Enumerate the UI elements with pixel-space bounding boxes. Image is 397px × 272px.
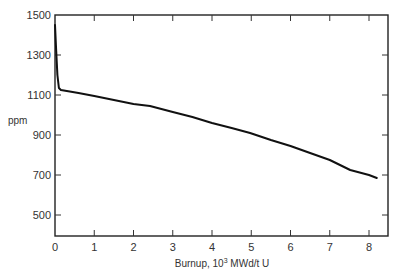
y-axis-label: ppm bbox=[8, 115, 27, 126]
x-tick-label: 1 bbox=[91, 241, 97, 253]
y-tick-label: 900 bbox=[33, 129, 51, 141]
y-axis-ticks: 500700900110013001500 bbox=[27, 9, 388, 221]
x-tick-label: 8 bbox=[366, 241, 372, 253]
y-tick-label: 500 bbox=[33, 209, 51, 221]
x-tick-label: 7 bbox=[327, 241, 333, 253]
y-tick-label: 700 bbox=[33, 169, 51, 181]
x-tick-label: 6 bbox=[287, 241, 293, 253]
x-tick-label: 4 bbox=[209, 241, 215, 253]
x-tick-label: 2 bbox=[130, 241, 136, 253]
x-axis-ticks: 012345678 bbox=[52, 15, 372, 253]
y-tick-label: 1100 bbox=[27, 89, 51, 101]
x-tick-label: 5 bbox=[248, 241, 254, 253]
x-tick-label: 0 bbox=[52, 241, 58, 253]
x-tick-label: 3 bbox=[170, 241, 176, 253]
y-tick-label: 1300 bbox=[27, 49, 51, 61]
chart: 500700900110013001500 012345678 ppm Burn… bbox=[0, 0, 397, 272]
x-axis-label: Burnup, 103 MWd/t U bbox=[175, 257, 270, 269]
y-tick-label: 1500 bbox=[27, 9, 51, 21]
data-line bbox=[55, 25, 377, 178]
